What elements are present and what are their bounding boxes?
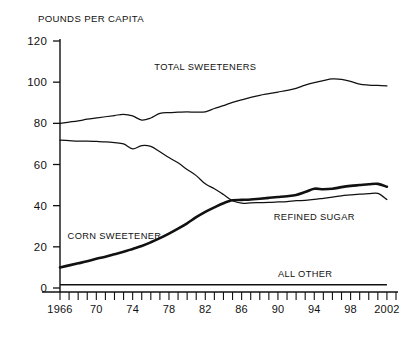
series-lines [60, 79, 387, 285]
chart-container: POUNDS PER CAPITA 020406080100120 196670… [0, 0, 415, 340]
y-axis-tick-label: 40 [34, 200, 47, 212]
series-label-corn-sweetener: CORN SWEETENER [68, 231, 162, 241]
x-axis-tick-label: 1966 [47, 303, 72, 315]
series-labels: TOTAL SWEETENERSREFINED SUGARCORN SWEETE… [68, 62, 355, 279]
series-label-total-sweeteners: TOTAL SWEETENERS [154, 62, 256, 72]
y-axis-tick-label: 60 [34, 159, 47, 171]
series-label-all-other: ALL OTHER [278, 269, 332, 279]
x-axis-tick-label: 70 [90, 303, 103, 315]
y-axis-tick-label: 100 [27, 76, 47, 88]
y-axis-tick-label: 20 [34, 241, 47, 253]
series-label-refined-sugar: REFINED SUGAR [274, 212, 355, 222]
x-axis-tick-label: 78 [163, 303, 176, 315]
sweetener-consumption-line-chart: POUNDS PER CAPITA 020406080100120 196670… [0, 0, 415, 340]
axis-title-group: POUNDS PER CAPITA [38, 13, 144, 24]
series-line-total-sweeteners [60, 79, 387, 124]
y-axis: 020406080100120 [27, 35, 60, 294]
x-axis-tick-label: 74 [126, 303, 139, 315]
x-axis-tick-label: 86 [235, 303, 248, 315]
x-axis-tick-label: 98 [344, 303, 357, 315]
y-axis-tick-label: 80 [34, 117, 47, 129]
y-axis-tick-label: 120 [27, 35, 47, 47]
x-axis: 196670747882869094982002 [42, 292, 400, 315]
y-axis-title: POUNDS PER CAPITA [38, 13, 144, 24]
x-axis-tick-label: 2002 [374, 303, 399, 315]
x-axis-tick-label: 82 [199, 303, 212, 315]
x-axis-tick-label: 90 [272, 303, 285, 315]
x-axis-tick-label: 94 [308, 303, 321, 315]
series-line-refined-sugar [60, 140, 387, 203]
